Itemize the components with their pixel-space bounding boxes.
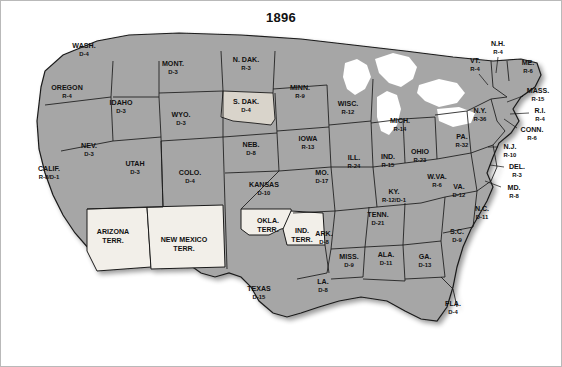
state-electoral-votes: R-6 [527, 135, 537, 141]
territory-shape-new-mexico [147, 205, 225, 269]
election-map-figure: 1896 [0, 0, 562, 367]
state-electoral-votes: R-10 [504, 152, 517, 158]
territory-shape-indian [283, 211, 325, 245]
state-electoral-votes: R-8 [509, 193, 519, 199]
state-shape-south-dakota [221, 91, 275, 125]
state-name: N.H. [491, 40, 505, 48]
state-electoral-votes: R-4 [493, 49, 503, 55]
state-name: MD. [507, 184, 520, 192]
state-name: R.I. [534, 107, 545, 115]
state-electoral-votes: R-4 [535, 116, 545, 122]
state-name: CONN. [521, 126, 544, 134]
state-electoral-votes: R-15 [532, 96, 545, 102]
territory-shape-arizona [87, 207, 151, 271]
us-map-svg: WASH.D-4OREGONR-4IDAHOD-3MONT.D-3N. DAK.… [1, 1, 562, 367]
state-electoral-votes: R-3 [512, 172, 522, 178]
state-name: DEL. [509, 163, 525, 171]
continental-outline [37, 33, 541, 321]
landmass-group [37, 33, 541, 321]
state-electoral-votes: D-4 [448, 309, 458, 315]
state-name: N.J. [503, 143, 516, 151]
